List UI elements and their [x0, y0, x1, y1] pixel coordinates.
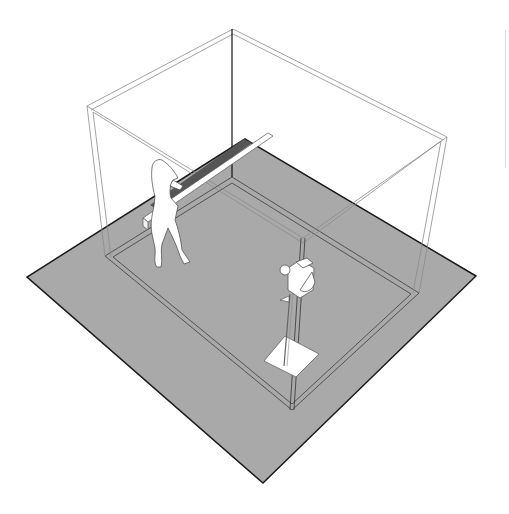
diagram-canvas	[0, 0, 509, 514]
floor-slab	[27, 139, 476, 483]
